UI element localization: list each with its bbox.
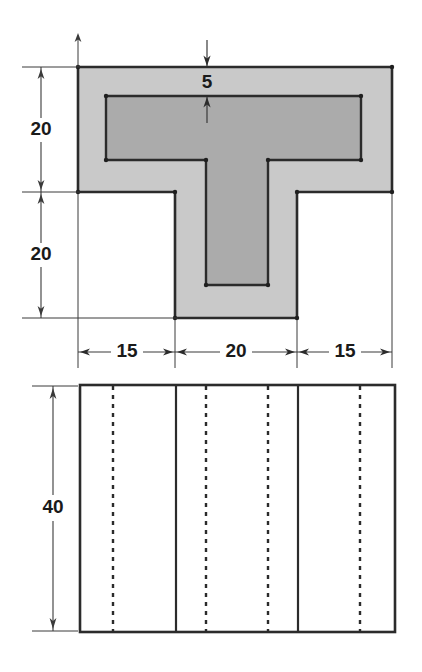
dimension-lower-height: 20 [27,192,55,318]
front-view-outline [80,385,395,632]
dimension-label-depth: 40 [42,496,63,517]
dimension-right-flange: 15 [297,340,392,363]
dimension-label-web-width: 20 [225,340,246,361]
dimension-upper-height: 20 [27,67,55,192]
dimension-label-upper-height: 20 [30,118,51,139]
dimension-label-right-flange: 15 [334,340,356,361]
front-view-group: 40 [32,385,395,632]
dimension-left-flange: 15 [78,340,175,363]
top-view-group: 20 20 5 [22,33,394,368]
engineering-drawing-canvas: 20 20 5 [0,0,422,672]
dimension-depth: 40 [36,386,70,631]
drawing-svg: 20 20 5 [0,0,422,672]
dimension-label-lower-height: 20 [30,243,51,264]
dimension-label-flange-thickness: 5 [202,71,213,92]
dimension-row-horizontal: 15 20 15 [78,340,392,363]
dimension-web-width: 20 [175,340,297,363]
dimension-label-left-flange: 15 [116,340,138,361]
